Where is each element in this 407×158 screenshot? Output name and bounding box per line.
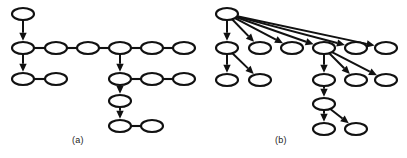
graph-node xyxy=(313,42,335,54)
diagram-panel-b xyxy=(203,0,407,158)
graph-node xyxy=(12,42,34,54)
edge-arrow-shaft xyxy=(232,53,248,68)
graph-node xyxy=(345,42,367,54)
graph-node xyxy=(141,120,163,132)
arrow-head-icon xyxy=(116,111,123,119)
arrow-head-icon xyxy=(116,64,123,72)
graph-node xyxy=(45,42,67,54)
graph-node xyxy=(313,98,335,110)
edge-arrow xyxy=(116,107,123,119)
arrow-head-icon xyxy=(223,65,230,73)
graph-node xyxy=(173,42,195,54)
graph-node xyxy=(249,42,271,54)
graph-node xyxy=(345,123,367,135)
arrow-head-icon xyxy=(116,86,123,94)
arrow-head-icon xyxy=(336,39,345,46)
edge-arrow-shaft xyxy=(330,109,342,118)
diagram-panel-a xyxy=(0,0,203,158)
edge-arrow xyxy=(116,54,123,72)
caption-a: (a) xyxy=(72,135,84,145)
edge-layer xyxy=(223,16,377,123)
arrow-head-icon xyxy=(223,33,230,41)
graph-node xyxy=(109,42,131,54)
graph-node xyxy=(109,95,131,107)
edge-arrow xyxy=(223,54,230,73)
arrow-head-icon xyxy=(305,38,314,45)
edge-arrow xyxy=(320,110,327,122)
arrow-head-icon xyxy=(320,89,327,97)
arrow-head-icon xyxy=(19,64,26,72)
graph-node xyxy=(313,123,335,135)
graph-node xyxy=(375,42,397,54)
graph-node xyxy=(216,74,238,86)
graph-node xyxy=(141,73,163,85)
edge-arrow xyxy=(320,54,327,73)
graph-node xyxy=(345,74,367,86)
graph-node xyxy=(109,73,131,85)
edge-arrow xyxy=(330,109,348,123)
graph-node xyxy=(216,42,238,54)
edge-arrow xyxy=(223,20,230,41)
arrow-head-icon xyxy=(320,114,327,122)
edge-arrow xyxy=(19,54,26,72)
graph-node xyxy=(281,42,303,54)
graph-node xyxy=(45,73,67,85)
graph-node xyxy=(249,74,271,86)
graph-node xyxy=(216,8,238,20)
edge-arrow xyxy=(320,86,327,97)
caption-b: (b) xyxy=(275,135,287,145)
edge-arrow xyxy=(19,20,26,41)
figure-container: (a) (b) xyxy=(0,0,407,158)
arrow-head-icon xyxy=(19,33,26,41)
graph-node xyxy=(313,74,335,86)
graph-node xyxy=(375,74,397,86)
edge-arrow xyxy=(232,53,253,74)
graph-node xyxy=(141,42,163,54)
edge-arrow xyxy=(116,85,123,94)
graph-node xyxy=(77,42,99,54)
edge-arrow xyxy=(236,17,313,45)
graph-node xyxy=(12,73,34,85)
graph-node xyxy=(173,73,195,85)
node-layer xyxy=(12,8,195,132)
graph-node xyxy=(109,120,131,132)
graph-node xyxy=(12,8,34,20)
arrow-head-icon xyxy=(320,65,327,73)
